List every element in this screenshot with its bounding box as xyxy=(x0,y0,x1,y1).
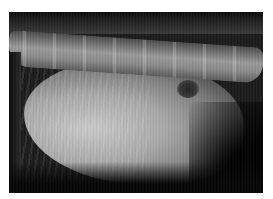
radiograph-image xyxy=(9,12,263,193)
scan-artifact xyxy=(9,12,263,193)
